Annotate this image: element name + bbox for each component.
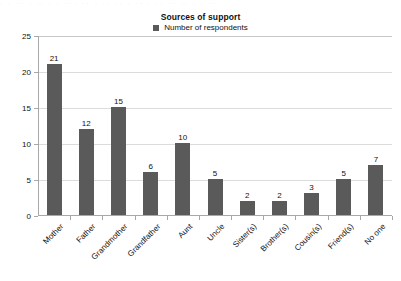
y-tick-label: 25 [22, 32, 31, 41]
bar-value-label: 10 [178, 133, 187, 142]
x-tick-mark [263, 216, 264, 220]
x-axis-label: Sister(s) [231, 222, 258, 249]
bar [79, 129, 94, 215]
x-tick-mark [70, 216, 71, 220]
bar-value-label: 5 [341, 169, 345, 178]
y-tick-label: 10 [22, 140, 31, 149]
gridline [39, 36, 392, 37]
gridline [39, 72, 392, 73]
bar [304, 193, 319, 215]
bar-value-label: 15 [114, 97, 123, 106]
bar [47, 64, 62, 215]
x-axis-label: Brother(s) [259, 222, 291, 254]
bar-value-label: 7 [374, 155, 378, 164]
bar-chart: · · ·· · ·· · · ··· ·· · ·· ·· · ·· · ··… [0, 0, 401, 281]
y-tick-label: 0 [27, 212, 31, 221]
bar-value-label: 3 [309, 183, 313, 192]
plot-area: 0510152025 211215610522357 [38, 36, 392, 216]
legend-swatch-icon [153, 25, 159, 31]
x-axis-label: Grandfather [125, 222, 162, 259]
bar-value-label: 5 [213, 169, 217, 178]
bar-value-label: 21 [50, 54, 59, 63]
gridline [39, 108, 392, 109]
bar [143, 172, 158, 215]
bar-value-label: 2 [277, 191, 281, 200]
bar-value-label: 2 [245, 191, 249, 200]
y-tick-label: 5 [27, 176, 31, 185]
legend-entry-label: Number of respondents [164, 24, 248, 32]
bar-value-label: 6 [148, 162, 152, 171]
y-tick-mark [34, 72, 38, 73]
x-tick-mark [199, 216, 200, 220]
x-axis-line [38, 215, 392, 216]
x-tick-mark [360, 216, 361, 220]
bar [175, 143, 190, 215]
y-tick-mark [34, 180, 38, 181]
y-tick-label: 15 [22, 104, 31, 113]
y-tick-mark [34, 144, 38, 145]
x-tick-mark [295, 216, 296, 220]
x-tick-mark [167, 216, 168, 220]
x-tick-mark [392, 216, 393, 220]
x-tick-mark [135, 216, 136, 220]
y-tick-label: 20 [22, 68, 31, 77]
bar [111, 107, 126, 215]
y-tick-mark [34, 216, 38, 217]
x-axis-label: Aunt [176, 222, 194, 240]
x-axis-label: Cousin(s) [292, 222, 323, 253]
chart-legend: Number of respondents [0, 24, 401, 32]
chart-title: Sources of support [0, 12, 401, 22]
x-axis-label: Uncle [206, 222, 227, 243]
bar-value-label: 12 [82, 119, 91, 128]
y-axis-line [38, 36, 39, 216]
bar [272, 201, 287, 215]
x-axis-label: No one [363, 222, 388, 247]
x-tick-mark [231, 216, 232, 220]
x-tick-mark [328, 216, 329, 220]
x-axis-label: Mother [41, 222, 65, 246]
scan-artifact: · · ·· · ·· · · ··· ·· · ·· ·· · ·· · ··… [0, 0, 401, 7]
bar [336, 179, 351, 215]
bar [240, 201, 255, 215]
x-axis-label: Friend(s) [326, 222, 355, 251]
x-tick-mark [102, 216, 103, 220]
y-tick-mark [34, 36, 38, 37]
bar [208, 179, 223, 215]
y-tick-mark [34, 108, 38, 109]
x-axis-label: Father [75, 222, 98, 245]
bar [368, 165, 383, 215]
